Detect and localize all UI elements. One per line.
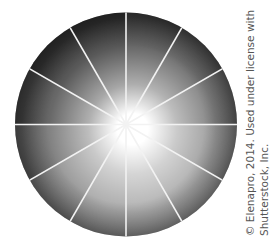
- copyright-credit: © Elenapro, 2014. Used under license wit…: [243, 6, 271, 236]
- grayscale-value-wheel: [14, 12, 238, 237]
- credit-line-1: © Elenapro, 2014. Used under license wit…: [243, 6, 257, 236]
- credit-line-2: Shutterstock, Inc.: [257, 6, 271, 236]
